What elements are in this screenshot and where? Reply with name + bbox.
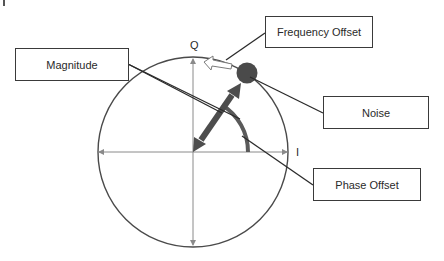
- frequency-offset-callout: Frequency Offset: [265, 16, 373, 48]
- leader-line-noise: [250, 77, 323, 113]
- noise-callout: Noise: [323, 96, 429, 129]
- q-axis-label: Q: [190, 39, 199, 51]
- phase-offset-callout: Phase Offset: [313, 168, 421, 201]
- leader-line-frequency-offset: [226, 33, 265, 60]
- noise-dot: [237, 63, 258, 84]
- constellation-diagram: [0, 0, 444, 261]
- leader-line-phase-offset: [242, 136, 313, 185]
- magnitude-callout: Magnitude: [15, 48, 129, 81]
- i-axis-label: I: [296, 146, 299, 158]
- leader-line-magnitude-main: [128, 64, 222, 113]
